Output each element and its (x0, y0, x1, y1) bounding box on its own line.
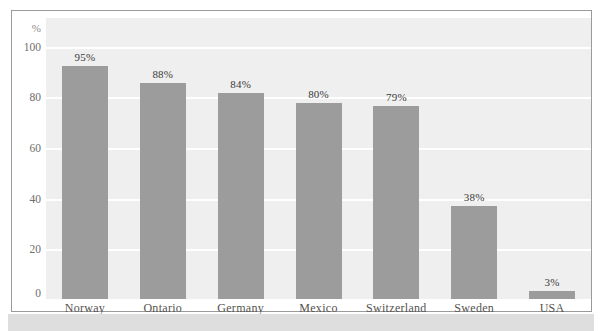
bar-germany[interactable] (218, 93, 264, 299)
bar-slot-usa[interactable]: 3% (513, 18, 591, 299)
bar-value-norway: 95% (46, 51, 124, 63)
y-tick-40: 40 (30, 193, 42, 205)
y-axis-unit-label: % (32, 22, 41, 34)
page-bottom-strip (8, 314, 594, 331)
bar-switzerland[interactable] (373, 106, 419, 299)
y-tick-20: 20 (30, 243, 42, 255)
bar-usa[interactable] (529, 291, 575, 299)
plot-area: 95% 88% 84% 80% 79% (46, 18, 591, 299)
bar-series: 95% 88% 84% 80% 79% (46, 18, 591, 299)
bar-value-ontario: 88% (124, 68, 202, 80)
y-tick-100: 100 (24, 41, 41, 53)
y-tick-60: 60 (30, 142, 42, 154)
bar-value-mexico: 80% (280, 88, 358, 100)
y-tick-0: 0 (35, 287, 41, 299)
bar-value-germany: 84% (202, 78, 280, 90)
bar-slot-mexico[interactable]: 80% (280, 18, 358, 299)
y-tick-80: 80 (30, 91, 42, 103)
bar-slot-sweden[interactable]: 38% (435, 18, 513, 299)
bar-norway[interactable] (62, 66, 108, 299)
bar-slot-switzerland[interactable]: 79% (357, 18, 435, 299)
bar-slot-norway[interactable]: 95% (46, 18, 124, 299)
bar-value-sweden: 38% (435, 191, 513, 203)
scanned-page: Percentage of beer sold in refillable bo… (0, 0, 602, 331)
bar-sweden[interactable] (451, 206, 497, 299)
bar-slot-ontario[interactable]: 88% (124, 18, 202, 299)
bar-value-usa: 3% (513, 276, 591, 288)
bar-slot-germany[interactable]: 84% (202, 18, 280, 299)
chart-frame: Percentage of beer sold in refillable bo… (11, 10, 592, 312)
y-axis: % 100 80 60 40 20 0 (12, 11, 46, 306)
bar-mexico[interactable] (296, 103, 342, 299)
bar-value-switzerland: 79% (357, 91, 435, 103)
bar-ontario[interactable] (140, 83, 186, 299)
